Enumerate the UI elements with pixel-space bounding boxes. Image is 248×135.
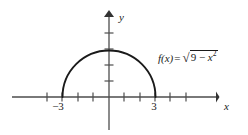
radical-expression: √9 − x2: [182, 51, 218, 64]
radical-sign-icon: √: [182, 50, 189, 65]
y-axis-arrowhead: [104, 10, 114, 17]
x-axis-label: x: [224, 101, 229, 112]
radicand-constant-text: 9: [191, 51, 197, 63]
exponent-two-text: 2: [213, 49, 217, 58]
x-tick-label-positive-three: 3: [146, 101, 162, 112]
function-equation-label: f(x)=√9 − x2: [158, 51, 218, 64]
x-tick-label-negative-three: −3: [47, 101, 69, 112]
minus-sign-text: −: [199, 51, 205, 63]
radicand-expression: 9 − x2: [190, 50, 219, 63]
y-axis-label: y: [119, 12, 124, 23]
semicircle-graph-figure: y x −3 3 f(x)=√9 − x2: [0, 0, 248, 135]
equals-sign-text: =: [174, 52, 180, 64]
x-axis-arrowhead: [216, 92, 220, 103]
graph-canvas: [0, 0, 248, 135]
function-name-text: f(x): [158, 52, 173, 64]
